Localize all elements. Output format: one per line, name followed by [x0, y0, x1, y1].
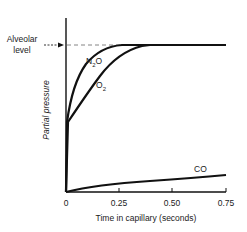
- chart: 0 0.25 0.50 0.75 Time in capillary (seco…: [0, 0, 247, 232]
- x-tick-label-075: 0.75: [218, 198, 235, 208]
- alveolar-arrow-head-icon: [58, 43, 64, 48]
- y-axis-label: Partial pressure: [41, 80, 51, 140]
- series-n2o-label: N2O: [86, 56, 102, 68]
- series-co-label: CO: [194, 164, 207, 174]
- series-co-line: [66, 175, 226, 192]
- series-o2-label: O2: [96, 80, 107, 92]
- x-tick-label-0: 0: [64, 198, 69, 208]
- alveolar-label-line1: Alveolar: [7, 34, 38, 44]
- x-tick-label-025: 0.25: [111, 198, 128, 208]
- alveolar-label-line2: level: [13, 45, 31, 55]
- x-tick-label-050: 0.50: [164, 198, 181, 208]
- x-axis-label: Time in capillary (seconds): [96, 213, 197, 223]
